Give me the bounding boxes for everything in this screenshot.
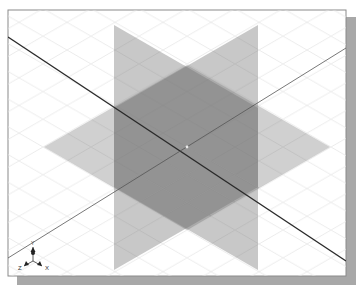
- triad-label-x: X: [45, 265, 49, 271]
- origin-point[interactable]: [186, 146, 189, 149]
- 3d-viewport[interactable]: Y Z X: [0, 0, 364, 293]
- triad-label-z: Z: [18, 265, 22, 271]
